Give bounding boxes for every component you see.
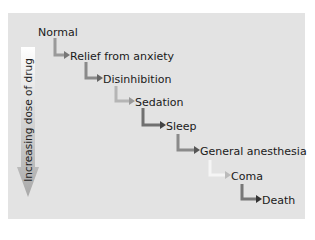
stage-coma: Coma — [231, 171, 263, 182]
stage-death: Death — [262, 195, 295, 206]
stage-disinhibition: Disinhibition — [103, 74, 171, 85]
stage-sleep: Sleep — [166, 121, 197, 132]
stage-sedation: Sedation — [135, 97, 184, 108]
stage-normal: Normal — [38, 27, 78, 38]
stage-general-anesthesia: General anesthesia — [200, 146, 307, 157]
stage-relief-from-anxiety: Relief from anxiety — [70, 51, 174, 62]
